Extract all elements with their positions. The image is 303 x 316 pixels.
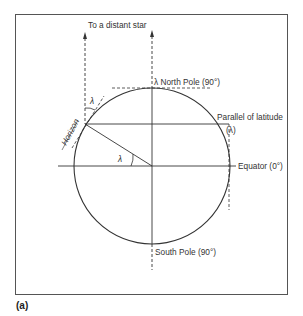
arrow-up-icon [83,32,87,39]
angle-top-label: λ [89,96,94,106]
figure-frame [16,15,288,295]
figure-caption: (a) [16,300,28,311]
latitude-diagram: To a distant star λ North Pole (90°) Par… [0,0,303,316]
parallel-label: Parallel of latitude [217,112,283,122]
north-pole-label: λ North Pole (90°) [154,77,220,87]
distant-star-label: To a distant star [88,20,147,30]
south-pole-label: South Pole (90°) [155,247,216,257]
angle-arc-center [131,154,133,166]
angle-center-label: λ [117,154,122,164]
parallel-symbol-label: (λ) [226,125,236,135]
arrow-up-icon [150,30,154,37]
angle-arc-top [85,108,95,110]
equator-label: Equator (0°) [238,161,283,171]
